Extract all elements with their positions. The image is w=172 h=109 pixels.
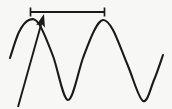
figure-background: [0, 0, 172, 109]
figure-canvas: [0, 0, 172, 109]
waveform-diagram: [0, 0, 172, 109]
